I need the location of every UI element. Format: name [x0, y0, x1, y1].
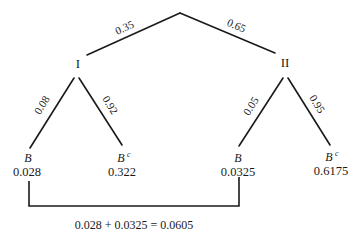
leaf-joint-I-Bc: 0.322 — [108, 165, 136, 179]
leaf-joint-I-B: 0.028 — [13, 165, 41, 179]
sum-bracket — [29, 177, 239, 206]
edge-root-to-II — [180, 13, 275, 53]
edge-root-to-I — [87, 13, 180, 55]
prob-I-to-Bc: 0.92 — [100, 94, 120, 117]
edge-II-to-Bc — [288, 78, 330, 145]
leaf-event-II-B: B — [234, 151, 242, 165]
leaf-joint-II-Bc: 0.6175 — [314, 164, 348, 178]
leaf-event-I-B: B — [24, 151, 32, 165]
leaf-event-I-Bc: B — [117, 151, 125, 165]
prob-II-to-B: 0.05 — [240, 94, 261, 117]
leaf-event-I-Bc-superscript: c — [127, 150, 131, 159]
prob-root-to-II: 0.65 — [225, 16, 248, 35]
leaf-joint-II-B: 0.0325 — [221, 165, 255, 179]
leaf-event-II-Bc-superscript: c — [335, 149, 339, 158]
sum-equation: 0.028 + 0.0325 = 0.0605 — [75, 218, 194, 232]
probability-tree-diagram: 0.35 0.65 I II 0.08 0.92 0.05 0.95 B 0.0… — [0, 0, 360, 236]
node-label-II: II — [281, 55, 290, 70]
prob-I-to-B: 0.08 — [31, 93, 52, 116]
node-label-I: I — [76, 56, 80, 71]
leaf-event-II-Bc: B — [325, 150, 333, 164]
